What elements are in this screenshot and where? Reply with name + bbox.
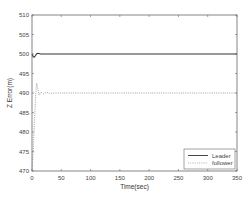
- x-tick-label: 100: [86, 175, 97, 181]
- x-tick-label: 350: [232, 175, 243, 181]
- y-tick-label: 475: [19, 149, 30, 155]
- legend-follower-label: follower: [212, 160, 233, 166]
- legend: Leader follower: [184, 149, 235, 169]
- y-tick-label: 510: [19, 12, 30, 18]
- line-chart: 470475480485490495500505510 050100150200…: [0, 0, 251, 205]
- y-tick-label: 470: [19, 168, 30, 174]
- legend-leader-label: Leader: [212, 153, 231, 159]
- y-tick-label: 505: [19, 32, 30, 38]
- x-tick-label: 0: [30, 175, 34, 181]
- y-axis-label: Z Error(m): [6, 78, 14, 108]
- x-tick-label: 300: [203, 175, 214, 181]
- x-tick-label: 50: [58, 175, 65, 181]
- x-axis-label: Time(sec): [120, 183, 149, 191]
- y-tick-label: 485: [19, 110, 30, 116]
- series-line-leader: [32, 53, 237, 57]
- x-tick-label: 150: [115, 175, 126, 181]
- y-tick-label: 480: [19, 129, 30, 135]
- y-tick-label: 500: [19, 51, 30, 57]
- y-tick-label: 495: [19, 71, 30, 77]
- x-tick-label: 250: [173, 175, 184, 181]
- x-tick-label: 200: [144, 175, 155, 181]
- y-tick-label: 490: [19, 90, 30, 96]
